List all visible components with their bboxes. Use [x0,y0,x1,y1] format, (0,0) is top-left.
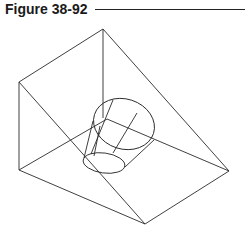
frustum-generator-4 [125,140,154,167]
frustum-generator-3 [113,113,137,153]
wedge-bottom-edges [19,170,229,224]
wedge-inner-base-right [107,119,229,171]
frustum-bottom-ellipse [82,150,126,176]
frustum-generator-5 [94,126,100,156]
wireframe-drawing [0,0,248,238]
wedge-left-diagonal [19,82,145,224]
